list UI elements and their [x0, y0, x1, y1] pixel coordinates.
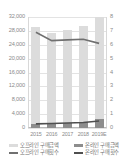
y-axis-left-tick: 32,000: [0, 14, 25, 20]
legend-item[interactable]: 오프라인 구매횟수: [9, 150, 74, 155]
y-axis-left-tick: 24,000: [0, 42, 25, 48]
legend-item[interactable]: 온라인 구매금액: [74, 143, 139, 148]
y-axis-left-tick: 0: [0, 125, 25, 131]
legend-bar-swatch-icon: [74, 144, 83, 147]
y-axis-right-tick: 1: [110, 111, 130, 117]
y-axis-right-tick: 6: [110, 42, 130, 48]
y-axis-right-tick: 2: [110, 97, 130, 103]
y-axis-left-tick: 8,000: [0, 97, 25, 103]
plot-area: [28, 17, 107, 128]
x-axis-tick: 2019E: [88, 132, 110, 137]
y-axis-right-tick: 8: [110, 14, 130, 20]
line-count: [36, 32, 99, 43]
combo-chart: 04,0008,00012,00016,00020,00024,00028,00…: [0, 0, 139, 168]
y-axis-left-tick: 4,000: [0, 111, 25, 117]
legend-label: 오프라인 구매횟수: [20, 150, 59, 155]
legend-bar-swatch-icon: [9, 144, 18, 147]
line-series-group: [28, 17, 107, 128]
legend-label: 오프라인 구매금액: [20, 143, 59, 148]
y-axis-right-tick: 7: [110, 28, 130, 34]
y-axis-left-tick: 28,000: [0, 28, 25, 34]
y-axis-right-tick: 4: [110, 70, 130, 76]
y-axis-right-tick: 3: [110, 83, 130, 89]
legend-item[interactable]: 오프라인 구매금액: [9, 143, 74, 148]
line-count: [36, 121, 99, 124]
y-axis-right-tick: 5: [110, 56, 130, 62]
y-axis-left-tick: 20,000: [0, 56, 25, 62]
gridline: [28, 128, 107, 129]
chart-legend: 오프라인 구매금액온라인 구매금액오프라인 구매횟수온라인 구매횟수: [9, 143, 139, 156]
y-axis-left-tick: 12,000: [0, 83, 25, 89]
legend-label: 온라인 구매횟수: [85, 150, 119, 155]
legend-label: 온라인 구매금액: [85, 143, 119, 148]
y-axis-left-tick: 16,000: [0, 70, 25, 76]
legend-item[interactable]: 온라인 구매횟수: [74, 150, 139, 155]
legend-line-swatch-icon: [74, 152, 83, 154]
legend-line-swatch-icon: [9, 152, 18, 154]
y-axis-right-tick: 0: [110, 125, 130, 131]
